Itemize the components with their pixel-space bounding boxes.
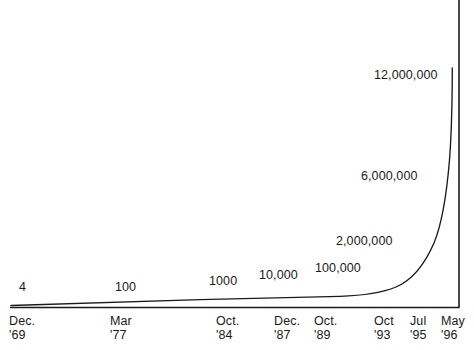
- chart-plot-area: [0, 0, 474, 350]
- growth-chart: 4 100 1000 10,000 100,000 2,000,000 6,00…: [0, 0, 474, 350]
- data-curve-line: [11, 68, 452, 306]
